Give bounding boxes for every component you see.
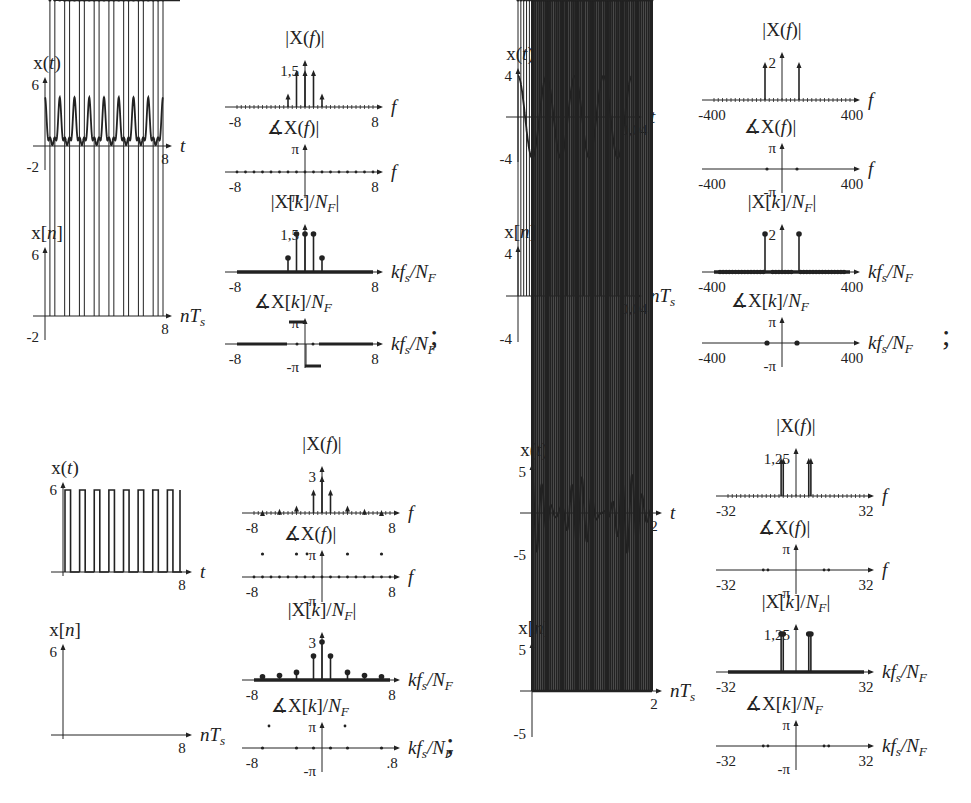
x-max-label: 400 <box>841 107 864 123</box>
x-max-label: 8 <box>371 351 379 367</box>
y-max-label: 4 <box>505 68 513 84</box>
y-max-label: 4 <box>505 246 513 262</box>
xn-title: x[n] <box>31 222 63 243</box>
phase-ft-title: ∡X(f)| <box>758 517 810 539</box>
mag-ft-title: |X(f)| <box>302 433 341 455</box>
signal-spectrum-figure: x(t)6-28tx[n]6-28nTs|X(f)|-88f1,5∡X(f)|π… <box>0 0 971 803</box>
x-axis-label: f <box>882 485 890 506</box>
x-max-label: 32 <box>859 503 874 519</box>
separator-semicolon-c: ; <box>446 726 454 760</box>
x-min-label: -8 <box>229 279 242 295</box>
phase-ft-title: ∡X(f)| <box>284 523 336 545</box>
x-axis-label: nTs <box>670 680 695 704</box>
x-min-label: -400 <box>698 350 726 366</box>
xn-title: x[n] <box>49 619 81 640</box>
x-axis-label: nTs <box>650 285 675 309</box>
x-min-label: -32 <box>716 503 736 519</box>
separator-semicolon-b: ; <box>942 318 950 352</box>
x-end-label: 8 <box>161 321 169 337</box>
separator-semicolon-a: ; <box>430 318 438 352</box>
peak-label: 2 <box>769 55 777 71</box>
mag-dft-title: |X[k]/NF| <box>748 191 817 215</box>
y-max-label: 6 <box>32 247 40 263</box>
mag-dft-title: |X[k]/NF| <box>288 599 357 623</box>
pi-label: π <box>308 719 316 735</box>
neg-pi-label: -π <box>286 359 299 375</box>
x-min-label: -8 <box>229 179 242 195</box>
x-max-label: 400 <box>841 350 864 366</box>
peak-label: 2 <box>769 227 777 243</box>
x-min-label: -8 <box>246 755 259 771</box>
y-max-label: 6 <box>32 77 40 93</box>
x-end-label: 8 <box>161 151 169 167</box>
x-axis-label: f <box>391 96 399 117</box>
xt-title: x(t) <box>51 457 78 479</box>
y-min-label: -5 <box>514 726 527 742</box>
x-min-label: -8 <box>246 520 259 536</box>
neg-pi-label: -π <box>303 763 316 779</box>
x-max-label: 8 <box>371 114 379 130</box>
x-end-label: 8 <box>178 740 186 756</box>
x-axis-label: f <box>408 502 416 523</box>
x-end-label: 8 <box>178 577 186 593</box>
x-axis-label: f <box>391 161 399 182</box>
x-axis-label: kfs/NF <box>408 669 454 693</box>
pi-label: π <box>308 547 316 563</box>
pi-label: π <box>768 314 776 330</box>
x-axis-label: t <box>180 135 186 156</box>
x-axis-label: kfs/NF <box>868 332 914 356</box>
x-max-label: .8 <box>386 755 397 771</box>
y-min-label: -4 <box>500 331 513 347</box>
signal-trace <box>65 490 182 572</box>
xt-title: x(t) <box>33 52 60 74</box>
x-max-label: 400 <box>841 176 864 192</box>
x-max-label: 8 <box>388 687 396 703</box>
x-min-label: -32 <box>716 679 736 695</box>
neg-pi-label: -π <box>763 358 776 374</box>
pi-label: π <box>782 717 790 733</box>
x-max-label: 8 <box>388 584 396 600</box>
phase-ft-title: ∡X(f)| <box>267 117 319 139</box>
pi-label: π <box>768 140 776 156</box>
x-max-label: 400 <box>841 279 864 295</box>
peak-label: 1,25 <box>764 451 790 467</box>
x-min-label: -8 <box>229 351 242 367</box>
x-axis-label: f <box>408 566 416 587</box>
x-axis-label: f <box>882 559 890 580</box>
x-axis-label: f <box>868 158 876 179</box>
x-max-label: 8 <box>388 520 396 536</box>
neg-pi-label: -π <box>777 761 790 777</box>
mag-ft-title: |X(f)| <box>776 415 815 437</box>
y-min-label: -2 <box>27 159 40 175</box>
x-min-label: -32 <box>716 753 736 769</box>
y-max-label: 5 <box>519 464 527 480</box>
mag-dft-title: |X[k]/NF| <box>762 591 831 615</box>
phase-dft-title: ∡X[k]/NF <box>731 290 810 314</box>
x-axis-label: f <box>868 89 876 110</box>
peak-label: 3 <box>309 635 317 651</box>
x-max-label: 32 <box>859 577 874 593</box>
x-axis-label: t <box>200 561 206 582</box>
y-max-label: 5 <box>519 642 527 658</box>
pi-label: π <box>782 541 790 557</box>
y-min-label: -5 <box>514 547 527 563</box>
mag-dft-title: |X[k]/NF| <box>271 191 340 215</box>
phase-dft-title: ∡X[k]/NF <box>271 695 350 719</box>
phase-ft-title: ∡X(f)| <box>744 116 796 138</box>
x-axis-label: kfs/NF <box>391 261 437 285</box>
y-min-label: -4 <box>500 151 513 167</box>
x-axis-label: nTs <box>180 305 205 329</box>
y-max-label: 6 <box>50 644 58 660</box>
x-axis-label: kfs/NF <box>868 261 914 285</box>
signal-trace <box>45 97 163 145</box>
x-min-label: -8 <box>246 687 259 703</box>
mag-ft-title: |X(f)| <box>285 27 324 49</box>
peak-label: 1,25 <box>764 627 790 643</box>
x-min-label: -8 <box>229 114 242 130</box>
phase-dft-title: ∡X[k]/NF <box>254 291 333 315</box>
x-axis-label: nTs <box>200 724 225 748</box>
x-axis-label: t <box>670 502 676 523</box>
phase-dft-title: ∡X[k]/NF <box>745 693 824 717</box>
x-max-label: 32 <box>859 679 874 695</box>
x-max-label: 32 <box>859 753 874 769</box>
